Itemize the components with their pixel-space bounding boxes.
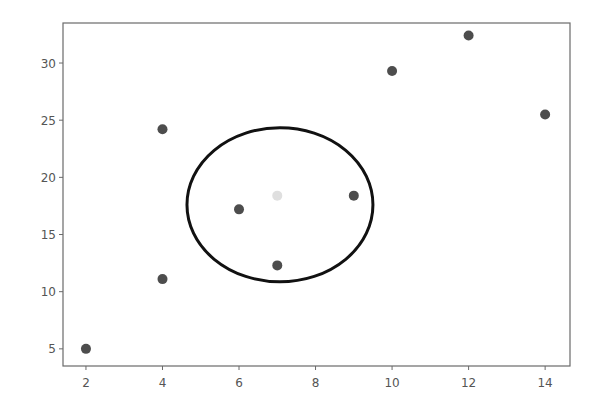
y-tick-label: 15: [41, 228, 56, 242]
data-point: [81, 344, 91, 354]
x-tick-label: 8: [312, 376, 320, 390]
x-tick-label: 14: [537, 376, 552, 390]
plot-frame: [63, 23, 570, 366]
data-point: [464, 31, 474, 41]
annotation-layer: [187, 128, 373, 282]
y-tick-label: 25: [41, 114, 56, 128]
x-axis: 2468101214: [82, 366, 553, 390]
x-tick-label: 4: [159, 376, 167, 390]
y-tick-label: 10: [41, 285, 56, 299]
y-tick-label: 30: [41, 57, 56, 71]
x-tick-label: 6: [235, 376, 243, 390]
data-point: [387, 66, 397, 76]
data-point: [157, 274, 167, 284]
y-tick-label: 20: [41, 171, 56, 185]
y-tick-label: 5: [48, 342, 56, 356]
data-point: [157, 124, 167, 134]
data-point: [272, 260, 282, 270]
x-tick-label: 10: [384, 376, 399, 390]
scatter-chart: 2468101214 51015202530: [0, 0, 598, 414]
x-tick-label: 2: [82, 376, 90, 390]
data-point: [349, 191, 359, 201]
y-axis: 51015202530: [41, 57, 63, 357]
x-tick-label: 12: [461, 376, 476, 390]
data-points-layer: [81, 31, 550, 354]
chart-canvas: 2468101214 51015202530: [0, 0, 598, 414]
highlight-ellipse: [187, 128, 373, 282]
highlighted-data-point: [272, 191, 282, 201]
data-point: [234, 204, 244, 214]
data-point: [540, 109, 550, 119]
